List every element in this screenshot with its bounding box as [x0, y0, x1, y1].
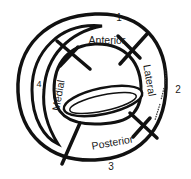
label-anterior: Anterior: [89, 34, 126, 46]
label-lateral: Lateral: [141, 63, 158, 97]
zone-number-2: 2: [175, 84, 181, 95]
label-posterior: Posterior: [91, 132, 135, 151]
diagram-canvas: Anterior Posterior Medial Lateral 1 2 3 …: [0, 0, 191, 179]
zone-number-3: 3: [108, 161, 114, 172]
zone-number-1: 1: [116, 12, 122, 23]
zone-number-4: 4: [36, 79, 41, 89]
knee-diagram: Anterior Posterior Medial Lateral 1 2 3 …: [0, 0, 191, 179]
